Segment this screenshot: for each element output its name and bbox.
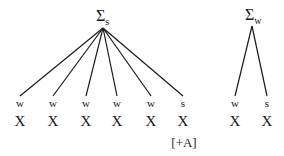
stress-label: w xyxy=(231,98,239,109)
stress-label: w xyxy=(82,98,90,109)
segment-x: X xyxy=(112,114,123,129)
tree-branches xyxy=(0,0,284,156)
segment-x: X xyxy=(15,114,26,129)
segment-x: X xyxy=(81,114,92,129)
segment-x: X xyxy=(230,114,241,129)
stress-label: w xyxy=(147,98,155,109)
segment-x: X xyxy=(262,114,273,129)
stress-label: w xyxy=(49,98,57,109)
stress-label: w xyxy=(16,98,24,109)
stress-label: w xyxy=(113,98,121,109)
root-subscript: w xyxy=(254,15,261,26)
branch-line xyxy=(53,28,103,96)
root-sigma-weak: Σw xyxy=(245,7,262,26)
segment-x: X xyxy=(146,114,157,129)
root-symbol: Σ xyxy=(96,7,105,24)
segment-x: X xyxy=(178,114,189,129)
branch-line xyxy=(86,28,103,96)
segment-x: X xyxy=(48,114,59,129)
root-subscript: s xyxy=(105,16,109,27)
stress-label: s xyxy=(181,98,185,109)
root-symbol: Σ xyxy=(245,6,254,23)
stress-label: s xyxy=(265,98,269,109)
feature-label: [+A] xyxy=(171,136,196,149)
branch-line xyxy=(235,26,252,96)
branch-line xyxy=(20,28,103,96)
root-sigma-strong: Σs xyxy=(96,8,109,27)
branch-line xyxy=(252,26,267,96)
